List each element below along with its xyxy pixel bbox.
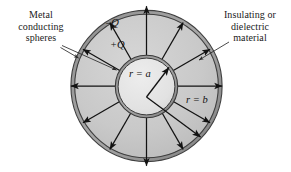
label-metal-line-3: spheres (4, 32, 78, 44)
inner-conducting-sphere (115, 55, 177, 117)
label-insulating-dielectric-material: Insulating or dielectric material (210, 9, 290, 44)
label-insulating-line-3: material (210, 32, 290, 44)
label-metal-conducting-spheres: Metal conducting spheres (4, 9, 78, 44)
label-metal-line-2: conducting (4, 21, 78, 33)
label-insulating-line-2: dielectric (210, 21, 290, 33)
label-radius-a: r = a (129, 68, 151, 79)
label-radius-b: r = b (186, 94, 208, 105)
label-metal-line-1: Metal (4, 9, 78, 21)
figure-container: Metal conducting spheres Insulating or d… (0, 0, 291, 172)
label-outer-charge: –Q (106, 17, 119, 28)
label-insulating-line-1: Insulating or (210, 9, 290, 21)
label-inner-charge: +Q (110, 39, 125, 50)
